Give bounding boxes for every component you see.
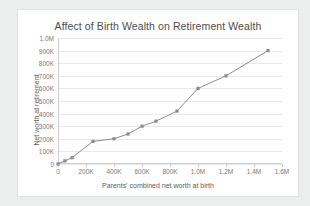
x-axis-tick-mark: [142, 164, 143, 167]
data-series-line: [58, 38, 282, 164]
x-axis-tick-label: 800K: [162, 168, 177, 175]
x-axis-tick-mark: [86, 164, 87, 167]
x-axis-tick-label: 1.2M: [219, 168, 233, 175]
y-axis-tick-label: 1.0M: [40, 35, 54, 42]
plot-area: 0100K200K300K400K500K600K700K800K900K1.0…: [58, 38, 282, 164]
x-axis-tick-mark: [282, 164, 283, 167]
data-point-marker: [56, 162, 59, 165]
data-point-marker: [140, 125, 143, 128]
x-axis-tick-mark: [198, 164, 199, 167]
data-point-marker: [196, 87, 199, 90]
x-axis-tick-label: 1.4M: [247, 168, 261, 175]
chart-card: Affect of Birth Wealth on Retirement Wea…: [17, 9, 299, 197]
data-point-marker: [112, 137, 115, 140]
data-point-marker: [266, 49, 269, 52]
x-axis-tick-label: 200K: [78, 168, 93, 175]
x-axis-tick-mark: [254, 164, 255, 167]
data-point-marker: [154, 120, 157, 123]
data-point-marker: [126, 132, 129, 135]
x-axis-tick-mark: [114, 164, 115, 167]
x-axis-tick-mark: [170, 164, 171, 167]
x-axis-tick-label: 0: [56, 168, 60, 175]
x-axis-tick-label: 400K: [106, 168, 121, 175]
data-point-marker: [175, 109, 178, 112]
series-line: [58, 51, 268, 164]
x-axis-title: Parents' combined net worth at birth: [18, 182, 298, 189]
x-axis-tick-label: 1.6M: [275, 168, 289, 175]
x-axis-tick-label: 600K: [134, 168, 149, 175]
y-axis-title: Net worth at retirement: [33, 47, 43, 173]
x-axis-tick-mark: [226, 164, 227, 167]
data-point-marker: [70, 156, 73, 159]
chart-title: Affect of Birth Wealth on Retirement Wea…: [18, 20, 298, 32]
x-axis-tick-label: 1.0M: [191, 168, 205, 175]
data-point-marker: [91, 140, 94, 143]
data-point-marker: [224, 74, 227, 77]
data-point-marker: [63, 159, 66, 162]
y-axis-tick-label: 0: [50, 161, 54, 168]
